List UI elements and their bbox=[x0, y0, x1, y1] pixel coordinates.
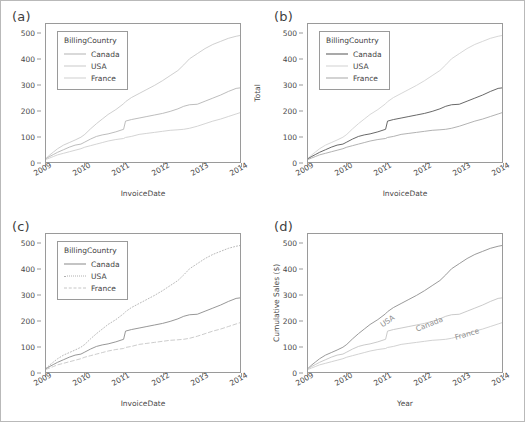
y-tick-mark bbox=[299, 243, 303, 244]
y-tick-label: 0 bbox=[292, 369, 297, 378]
x-tick-label: 2014 bbox=[228, 370, 249, 387]
x-tick-label: 2010 bbox=[333, 160, 354, 177]
legend-key-icon bbox=[326, 62, 348, 70]
series-line-france bbox=[46, 323, 240, 370]
x-tick-label: 2010 bbox=[333, 370, 354, 387]
panel-c: (c) 0100200300400500 Total InvoiceDate 2… bbox=[1, 211, 263, 421]
y-tick-mark bbox=[299, 33, 303, 34]
x-tick-label: 2013 bbox=[189, 160, 210, 177]
legend-key-icon bbox=[64, 272, 86, 280]
y-tick-mark bbox=[37, 295, 41, 296]
x-tick-label: 2014 bbox=[490, 160, 511, 177]
x-tick-label: 2013 bbox=[451, 160, 472, 177]
panel-letter-d: (d) bbox=[274, 219, 293, 234]
x-axis-d: Year 200920102011201220132014 bbox=[307, 373, 503, 413]
y-tick-mark bbox=[37, 347, 41, 348]
legend-key-icon bbox=[64, 50, 86, 58]
y-tick-label: 500 bbox=[21, 29, 35, 38]
series-line-usa bbox=[308, 246, 502, 369]
series-line-canada bbox=[46, 88, 240, 159]
y-tick-mark bbox=[299, 137, 303, 138]
plot-area-a: 0100200300400500 Total InvoiceDate 20092… bbox=[45, 23, 241, 163]
legend-key-icon bbox=[326, 74, 348, 82]
y-tick-label: 100 bbox=[283, 343, 297, 352]
x-axis-a: InvoiceDate 200920102011201220132014 bbox=[45, 163, 241, 203]
legend-item-usa[interactable]: USA bbox=[326, 60, 382, 72]
y-tick-label: 400 bbox=[21, 265, 35, 274]
x-axis-c: InvoiceDate 200920102011201220132014 bbox=[45, 373, 241, 413]
legend-c: BillingCountryCanadaUSAFrance bbox=[57, 241, 128, 300]
panel-b: (b) 0100200300400500 Total InvoiceDate 2… bbox=[263, 1, 525, 211]
legend-item-usa[interactable]: USA bbox=[64, 60, 120, 72]
plot-area-d: USACanadaFrance 0100200300400500 Cumulat… bbox=[307, 233, 503, 373]
y-axis-a: 0100200300400500 bbox=[5, 23, 41, 163]
y-tick-mark bbox=[299, 269, 303, 270]
legend-item-usa[interactable]: USA bbox=[64, 270, 120, 282]
legend-key-icon bbox=[64, 74, 86, 82]
legend-label: USA bbox=[91, 62, 107, 71]
plot-frame-d: USACanadaFrance bbox=[307, 233, 503, 373]
panel-letter-a: (a) bbox=[12, 9, 31, 24]
y-tick-mark bbox=[37, 111, 41, 112]
y-tick-label: 400 bbox=[21, 55, 35, 64]
x-tick-label: 2011 bbox=[110, 370, 131, 387]
y-tick-mark bbox=[299, 111, 303, 112]
legend-label: USA bbox=[91, 272, 107, 281]
plot-area-b: 0100200300400500 Total InvoiceDate 20092… bbox=[307, 23, 503, 163]
y-tick-mark bbox=[37, 85, 41, 86]
y-tick-mark bbox=[299, 59, 303, 60]
legend-item-canada[interactable]: Canada bbox=[64, 258, 120, 270]
y-tick-label: 300 bbox=[21, 81, 35, 90]
x-tick-label: 2012 bbox=[150, 160, 171, 177]
y-tick-mark bbox=[37, 163, 41, 164]
series-line-canada bbox=[46, 298, 240, 369]
y-tick-mark bbox=[299, 321, 303, 322]
y-tick-mark bbox=[37, 59, 41, 60]
legend-title: BillingCountry bbox=[326, 36, 382, 45]
x-tick-label: 2012 bbox=[150, 370, 171, 387]
legend-label: USA bbox=[353, 62, 369, 71]
y-tick-label: 200 bbox=[21, 317, 35, 326]
legend-item-france[interactable]: France bbox=[64, 282, 120, 294]
legend-item-france[interactable]: France bbox=[326, 72, 382, 84]
y-tick-label: 0 bbox=[292, 159, 297, 168]
y-tick-label: 300 bbox=[283, 291, 297, 300]
figure-panel-grid: (a) 0100200300400500 Total InvoiceDate 2… bbox=[0, 0, 525, 422]
legend-item-canada[interactable]: Canada bbox=[64, 48, 120, 60]
y-tick-label: 400 bbox=[283, 265, 297, 274]
legend-key-icon bbox=[64, 260, 86, 268]
y-tick-mark bbox=[299, 85, 303, 86]
x-tick-label: 2013 bbox=[189, 370, 210, 387]
y-tick-mark bbox=[299, 295, 303, 296]
series-line-canada bbox=[308, 88, 502, 159]
y-tick-label: 0 bbox=[30, 159, 35, 168]
y-tick-label: 300 bbox=[283, 81, 297, 90]
x-axis-b: InvoiceDate 200920102011201220132014 bbox=[307, 163, 503, 203]
y-tick-label: 100 bbox=[21, 133, 35, 142]
panel-d: (d) USACanadaFrance 0100200300400500 Cum… bbox=[263, 211, 525, 421]
x-tick-label: 2010 bbox=[71, 370, 92, 387]
legend-label: Canada bbox=[353, 50, 382, 59]
y-tick-mark bbox=[37, 243, 41, 244]
legend-key-icon bbox=[64, 284, 86, 292]
legend-key-icon bbox=[326, 50, 348, 58]
x-axis-label-a: InvoiceDate bbox=[45, 189, 241, 198]
y-axis-label-d: Cumulative Sales ($) bbox=[272, 264, 281, 342]
y-axis-b: 0100200300400500 bbox=[267, 23, 303, 163]
legend-label: France bbox=[91, 284, 116, 293]
x-tick-label: 2014 bbox=[228, 160, 249, 177]
legend-label: France bbox=[91, 74, 116, 83]
legend-item-canada[interactable]: Canada bbox=[326, 48, 382, 60]
legend-item-france[interactable]: France bbox=[64, 72, 120, 84]
lines-d bbox=[308, 234, 502, 372]
panel-letter-b: (b) bbox=[274, 9, 293, 24]
legend-label: Canada bbox=[91, 50, 120, 59]
legend-label: Canada bbox=[91, 260, 120, 269]
y-tick-mark bbox=[37, 33, 41, 34]
panel-a: (a) 0100200300400500 Total InvoiceDate 2… bbox=[1, 1, 263, 211]
y-tick-label: 300 bbox=[21, 291, 35, 300]
plot-area-c: 0100200300400500 Total InvoiceDate 20092… bbox=[45, 233, 241, 373]
legend-label: France bbox=[353, 74, 378, 83]
legend-key-icon bbox=[64, 62, 86, 70]
y-tick-mark bbox=[37, 269, 41, 270]
